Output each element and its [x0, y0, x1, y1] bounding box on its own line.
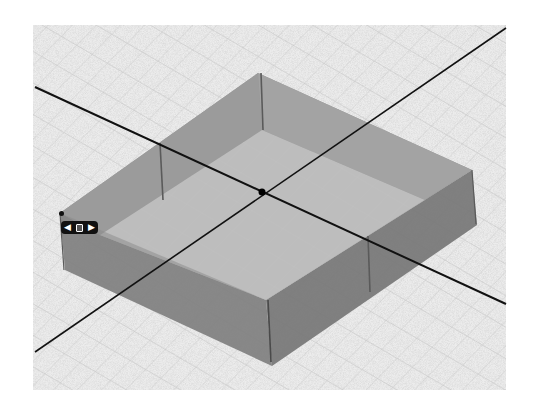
3d-viewport[interactable]: ◀ ▶ [0, 0, 537, 408]
scene-canvas[interactable] [0, 0, 537, 408]
move-gizmo[interactable]: ◀ ▶ [61, 221, 98, 234]
move-handle-icon[interactable] [76, 224, 83, 232]
origin-point[interactable] [259, 189, 266, 196]
arrow-left-icon[interactable]: ◀ [64, 221, 71, 234]
arrow-right-icon[interactable]: ▶ [88, 221, 95, 234]
vertex-point[interactable] [59, 211, 64, 216]
